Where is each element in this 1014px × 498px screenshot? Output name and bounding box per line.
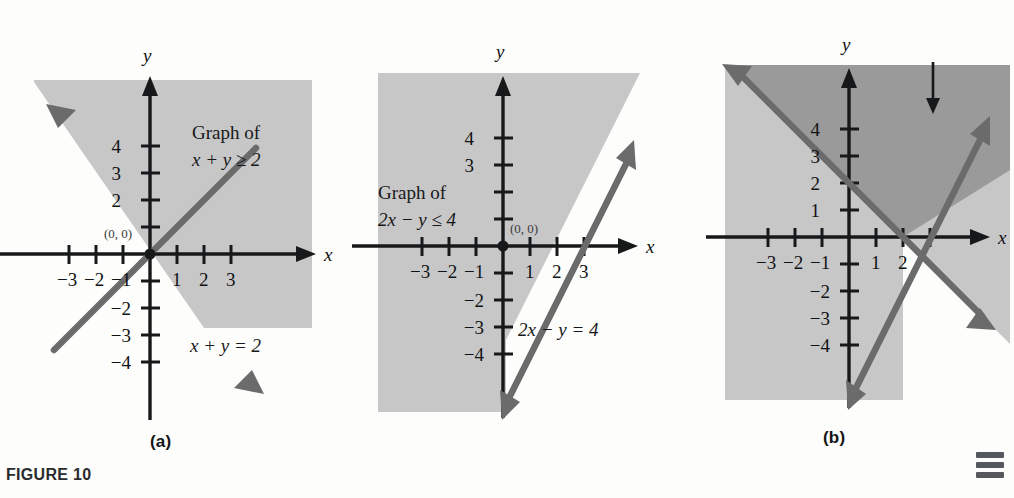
y-tick-label--4: −4 — [464, 344, 485, 365]
origin-point-b — [498, 241, 509, 252]
region-label-a-line2: x + y ≥ 2 — [191, 149, 261, 170]
x-tick-label--2: −2 — [84, 269, 104, 290]
y-tick-label--3: −3 — [810, 308, 830, 329]
x-tick-label--2: −2 — [437, 261, 457, 282]
panel-a: −3 −2 −1 1 2 3 4 3 2 −2 −3 −4 x y (0, 0)… — [0, 0, 340, 470]
region-label-b-line2: 2x − y ≤ 4 — [378, 209, 457, 230]
y-tick-label--4: −4 — [810, 335, 831, 356]
y-tick-label--2: −2 — [464, 290, 484, 311]
shaded-region-a — [34, 80, 312, 328]
y-tick-label-4: 4 — [811, 119, 821, 140]
x-tick-label--2: −2 — [783, 252, 803, 273]
x-axis-label-b: x — [645, 236, 655, 257]
x-tick-label--1: −1 — [464, 261, 484, 282]
y-tick-label--2: −2 — [111, 298, 131, 319]
menu-bar-3 — [976, 472, 1004, 478]
x-tick-label-1: 1 — [871, 252, 881, 273]
hamburger-menu-icon[interactable] — [976, 452, 1004, 478]
origin-label-b: (0, 0) — [510, 221, 538, 236]
line-label-b: 2x − y = 4 — [518, 319, 599, 340]
y-tick-label-3: 3 — [811, 146, 821, 167]
y-tick-label-3: 3 — [112, 163, 122, 184]
y-tick-label--3: −3 — [111, 325, 131, 346]
x-tick-label-1: 1 — [172, 269, 182, 290]
y-axis-label-b: y — [494, 41, 505, 62]
y-tick-label-1: 1 — [811, 200, 821, 221]
x-axis-label-a: x — [323, 244, 333, 265]
x-tick-label--1: −1 — [810, 252, 830, 273]
y-tick-label--3: −3 — [464, 317, 484, 338]
shaded-region-b — [378, 73, 640, 412]
menu-bar-2 — [976, 462, 1004, 468]
x-tick-label-2: 2 — [552, 261, 562, 282]
y-tick-label--2: −2 — [810, 281, 830, 302]
x-tick-label-2: 2 — [898, 252, 908, 273]
x-tick-label--1: −1 — [111, 269, 131, 290]
y-tick-label-4: 4 — [112, 136, 122, 157]
x-tick-label-3: 3 — [579, 261, 589, 282]
x-tick-label--3: −3 — [756, 252, 776, 273]
figure-10: −3 −2 −1 1 2 3 4 3 2 −2 −3 −4 x y (0, 0)… — [0, 0, 1014, 498]
y-tick-label-4: 4 — [465, 128, 475, 149]
x-tick-label--3: −3 — [410, 261, 430, 282]
line-label-a: x + y = 2 — [189, 335, 262, 356]
y-tick-label-2: 2 — [112, 190, 122, 211]
panel-b-graph: −3 −2 −1 1 2 3 4 3 −2 −3 −4 x y (0, 0) G… — [340, 0, 670, 470]
panel-c-graph: −3 −2 −1 1 2 4 3 2 1 −2 −3 −4 x y — [660, 0, 1014, 470]
y-axis-label-a: y — [141, 45, 152, 66]
y-axis-label-c: y — [840, 34, 851, 55]
y-tick-label-2: 2 — [811, 173, 821, 194]
region-label-b-line1: Graph of — [378, 182, 447, 203]
y-tick-label-3: 3 — [465, 155, 475, 176]
origin-label-a: (0, 0) — [104, 226, 132, 241]
x-tick-label-3: 3 — [226, 269, 236, 290]
origin-point-a — [145, 249, 156, 260]
region-label-a-line1: Graph of — [192, 122, 261, 143]
x-tick-label-2: 2 — [199, 269, 209, 290]
x-axis-label-c: x — [997, 227, 1007, 248]
menu-bar-1 — [976, 452, 1004, 458]
panel-b: −3 −2 −1 1 2 3 4 3 −2 −3 −4 x y (0, 0) G… — [340, 0, 670, 470]
y-tick-label--4: −4 — [111, 352, 132, 373]
x-tick-label-1: 1 — [525, 261, 535, 282]
x-tick-label--3: −3 — [57, 269, 77, 290]
figure-number-label: FIGURE 10 — [6, 466, 91, 484]
panel-c: −3 −2 −1 1 2 4 3 2 1 −2 −3 −4 x y { x + … — [660, 0, 1014, 470]
panel-caption-a: (a) — [150, 432, 171, 452]
panel-a-graph: −3 −2 −1 1 2 3 4 3 2 −2 −3 −4 x y (0, 0)… — [0, 0, 340, 470]
